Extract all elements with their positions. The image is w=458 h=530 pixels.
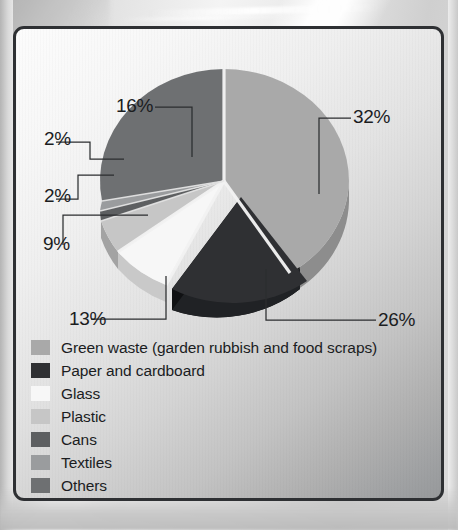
pct-label-cans: 2%	[44, 186, 71, 205]
chart-panel: 32% 26% 16% 2% 2% 9% 13% Green waste (ga…	[13, 26, 444, 501]
photo-edge-right	[448, 0, 458, 530]
legend-label-cans: Cans	[61, 432, 97, 448]
legend-item-textiles: Textiles	[31, 451, 431, 474]
screenshot-root: 32% 26% 16% 2% 2% 9% 13% Green waste (ga…	[0, 0, 458, 530]
pie-chart-svg	[16, 29, 444, 349]
legend-item-others: Others	[31, 474, 431, 497]
legend-swatch-textiles	[31, 455, 50, 470]
pct-label-paper-cardboard: 26%	[378, 310, 415, 329]
pct-label-glass: 13%	[69, 309, 106, 328]
legend-label-green-waste: Green waste (garden rubbish and food scr…	[61, 340, 377, 356]
legend-item-green-waste: Green waste (garden rubbish and food scr…	[31, 336, 431, 359]
legend-swatch-paper-cardboard	[31, 363, 50, 378]
photo-highlight-streak-secondary	[120, 14, 300, 22]
legend-label-glass: Glass	[61, 386, 100, 402]
legend-item-paper-cardboard: Paper and cardboard	[31, 359, 431, 382]
slice-others	[100, 69, 224, 201]
legend-item-cans: Cans	[31, 428, 431, 451]
legend-swatch-plastic	[31, 409, 50, 424]
legend-swatch-cans	[31, 432, 50, 447]
pct-label-plastic: 9%	[43, 234, 70, 253]
legend-label-textiles: Textiles	[61, 455, 112, 471]
legend-item-glass: Glass	[31, 382, 431, 405]
pct-label-green-waste: 32%	[353, 107, 390, 126]
legend-label-paper-cardboard: Paper and cardboard	[61, 363, 205, 379]
legend-swatch-glass	[31, 386, 50, 401]
legend-item-plastic: Plastic	[31, 405, 431, 428]
legend-label-plastic: Plastic	[61, 409, 106, 425]
pct-label-others: 16%	[116, 96, 153, 115]
pct-label-textiles: 2%	[44, 129, 71, 148]
legend-swatch-green-waste	[31, 340, 50, 355]
photo-edge-left	[0, 0, 13, 530]
legend-swatch-others	[31, 478, 50, 493]
pie-chart	[16, 29, 444, 349]
legend-label-others: Others	[61, 478, 107, 494]
chart-legend: Green waste (garden rubbish and food scr…	[31, 336, 431, 497]
